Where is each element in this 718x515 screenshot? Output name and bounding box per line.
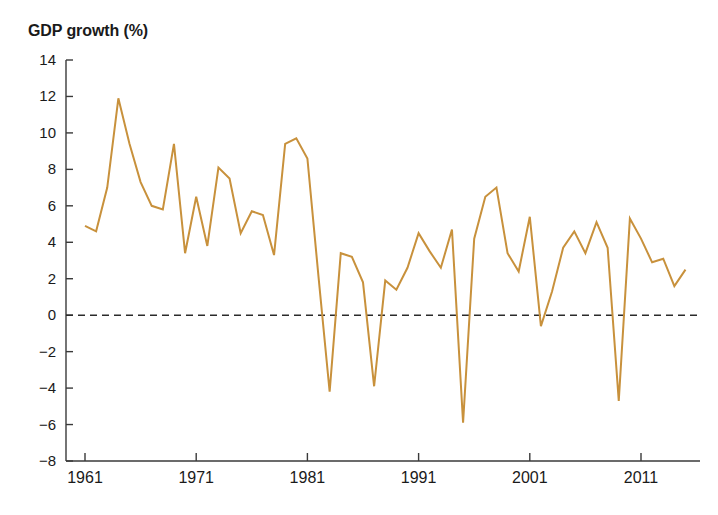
plot-area: 14121086420−2−4−6−8 19611971198119912001…	[0, 0, 718, 515]
x-axis-tick-marks	[85, 453, 641, 461]
y-tick-label: 4	[48, 233, 56, 250]
y-tick-label: −8	[39, 452, 56, 469]
x-tick-label: 1961	[67, 469, 103, 486]
y-tick-label: 2	[48, 270, 56, 287]
y-tick-label: 10	[39, 124, 56, 141]
chart-svg: 14121086420−2−4−6−8 19611971198119912001…	[0, 0, 718, 515]
x-tick-label: 2001	[512, 469, 548, 486]
x-tick-label: 1981	[290, 469, 326, 486]
x-tick-label: 2011	[624, 469, 659, 486]
y-tick-label: 8	[48, 160, 56, 177]
y-axis-tick-marks	[66, 60, 73, 461]
chart-container: GDP growth (%) 14121086420−2−4−6−8 19611…	[0, 0, 718, 515]
x-tick-label: 1971	[178, 469, 214, 486]
gdp-growth-line	[85, 98, 685, 422]
y-axis-tick-labels: 14121086420−2−4−6−8	[39, 51, 56, 469]
x-tick-label: 1991	[401, 469, 437, 486]
y-tick-label: −2	[39, 343, 56, 360]
y-tick-label: 14	[39, 51, 56, 68]
y-tick-label: 12	[39, 87, 56, 104]
y-tick-label: 6	[48, 197, 56, 214]
y-tick-label: −4	[39, 379, 56, 396]
y-tick-label: 0	[48, 306, 56, 323]
x-axis-tick-labels: 196119711981199120012011	[67, 469, 658, 486]
y-tick-label: −6	[39, 416, 56, 433]
